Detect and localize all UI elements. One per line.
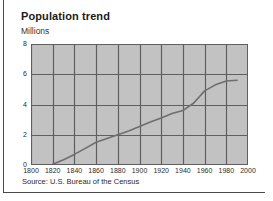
y-axis-tick-label: 6	[15, 70, 27, 77]
frame-bottom-rule	[3, 192, 265, 193]
chart-svg	[31, 44, 248, 165]
frame-left-rule	[3, 0, 4, 193]
plot-area	[31, 44, 248, 165]
y-axis-tick-label: 8	[15, 40, 27, 47]
y-axis-tick-label: 4	[15, 101, 27, 108]
chart-title: Population trend	[21, 10, 110, 22]
x-axis-tick-label: 2000	[235, 167, 261, 174]
figure-panel: Population trend Millions 02468 18001820…	[0, 0, 273, 201]
plot-background	[31, 44, 248, 165]
y-axis-tick-label: 2	[15, 131, 27, 138]
chart-source-note: Source: U.S. Bureau of the Census	[22, 177, 139, 186]
chart-axis-unit-label: Millions	[21, 26, 49, 36]
